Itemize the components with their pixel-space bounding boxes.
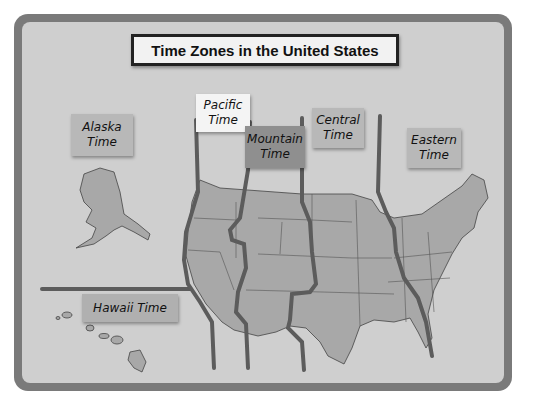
mountain-time-label: Mountain Time xyxy=(245,126,305,168)
map-board: Time Zones in the United States Alaska T… xyxy=(22,22,504,383)
hawaii-time-label: Hawaii Time xyxy=(82,294,178,322)
us-map xyxy=(22,22,504,383)
pacific-time-label: Pacific Time xyxy=(196,94,250,132)
map-frame: Time Zones in the United States Alaska T… xyxy=(14,14,512,391)
alaska-time-label: Alaska Time xyxy=(71,114,133,156)
eastern-time-label: Eastern Time xyxy=(407,128,461,168)
continental-us-shape xyxy=(186,174,488,364)
alaska-shape xyxy=(76,168,150,248)
map-title: Time Zones in the United States xyxy=(131,34,399,66)
central-time-label: Central Time xyxy=(312,108,364,148)
